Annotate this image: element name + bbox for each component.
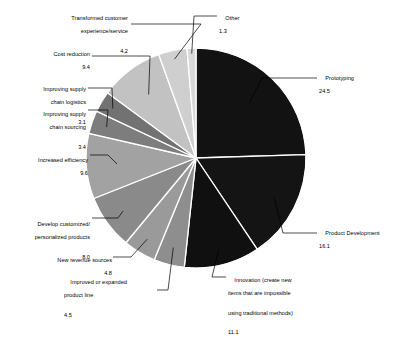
label-line: items that are impossible <box>228 290 338 297</box>
label-value: 4.5 <box>64 312 154 319</box>
label-line: Prototyping <box>325 75 354 81</box>
pie-label-cost-reduction: Cost reduction 9.4 <box>20 44 90 84</box>
label-line: experience/service <box>18 28 128 35</box>
pie-label-product-development: Product Development 16.1 <box>319 223 394 263</box>
label-value: 11.1 <box>228 329 338 336</box>
pie-slices-group <box>86 48 306 268</box>
label-value: 9.4 <box>20 64 90 71</box>
label-line: Increased efficiency <box>38 157 88 163</box>
label-line: using traditional methods) <box>228 310 338 317</box>
label-line: Innovation (create new <box>234 277 291 283</box>
label-line: Transformed customer <box>71 15 128 21</box>
label-line: Improving supply <box>43 111 86 117</box>
label-line: Other <box>225 15 239 21</box>
pie-label-improved-or-expanded-product-line: Improved or expanded product line 4.5 <box>64 272 154 331</box>
pie-slice[interactable] <box>196 48 306 158</box>
pie-label-prototyping: Prototyping 24.5 <box>319 68 391 108</box>
label-line: chain sourcing <box>6 124 86 131</box>
pie-label-other: Other 1.3 <box>219 8 289 48</box>
pie-label-innovation: Innovation (create new items that are im… <box>228 270 338 338</box>
label-line: personalized products <box>4 234 90 241</box>
label-line: Product Development <box>325 230 379 236</box>
label-line: Improved or expanded <box>70 279 127 285</box>
label-value: 1.3 <box>219 28 289 35</box>
label-value: 9.6 <box>4 170 88 177</box>
label-value: 24.5 <box>319 88 391 95</box>
label-line: Develop customized/ <box>38 221 91 227</box>
label-value: 16.1 <box>319 243 394 250</box>
label-line: New revenue sources <box>57 257 112 263</box>
pie-label-increased-efficiency: Increased efficiency 9.6 <box>4 150 88 190</box>
label-line: product line <box>64 292 154 299</box>
label-line: Cost reduction <box>54 51 91 57</box>
label-line: Improving supply <box>43 86 86 92</box>
